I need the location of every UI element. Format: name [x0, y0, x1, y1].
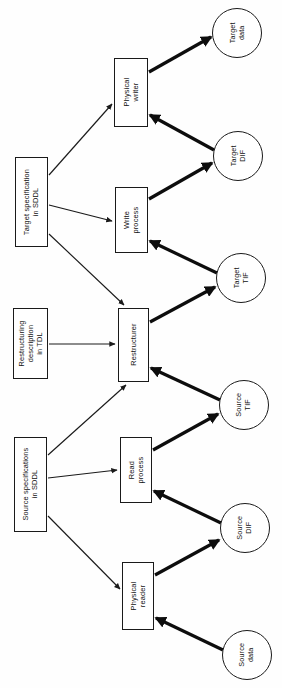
node-target-dif[interactable]: TargetDIF — [213, 131, 263, 181]
node-label: TargetDIF — [229, 146, 247, 167]
edge-source-dif-read-process — [154, 491, 221, 523]
node-physical-writer[interactable]: Physicalwriter — [114, 58, 148, 127]
node-label: SourceDIF — [236, 516, 254, 540]
node-source-data[interactable]: Sourcedata — [222, 630, 272, 680]
node-source-specifications-sddl[interactable]: Source specificationsin SDDL — [14, 437, 47, 532]
node-label: Physicalwriter — [122, 78, 140, 107]
node-label: TargetTIF — [232, 268, 250, 289]
node-label: Restructuringdescriptionin TDL — [17, 321, 44, 367]
edge-target-dif-physical-writer — [150, 115, 214, 150]
edge-sourcespec-read-process — [48, 470, 117, 478]
node-physical-reader[interactable]: Physicalreader — [122, 562, 154, 630]
node-label: Source specificationsin SDDL — [21, 448, 39, 521]
diagram-canvas: Physicalwriter Writeprocess Restructurer… — [0, 0, 282, 688]
node-label: Restructurer — [129, 324, 138, 366]
edge-targetspec-physical-writer — [49, 104, 112, 175]
edge-sourcespec-restructurer — [48, 385, 126, 455]
edge-physical-writer-target-data — [149, 37, 211, 72]
node-label: SourceTIF — [235, 393, 253, 417]
node-write-process[interactable]: Writeprocess — [115, 187, 148, 253]
node-restructuring-description-tdl[interactable]: Restructuringdescriptionin TDL — [13, 308, 48, 379]
edge-targetspec-write-process — [49, 205, 112, 221]
node-label: Sourcedata — [238, 643, 256, 667]
node-source-tif[interactable]: SourceTIF — [219, 380, 269, 430]
edge-physical-reader-source-dif — [155, 540, 219, 575]
edge-source-tif-restructurer — [151, 368, 220, 400]
edge-source-data-physical-reader — [156, 618, 223, 650]
node-read-process[interactable]: Readprocess — [120, 437, 152, 503]
node-source-dif[interactable]: SourceDIF — [220, 503, 270, 553]
node-target-data[interactable]: Targetdata — [212, 8, 262, 58]
node-restructurer[interactable]: Restructurer — [118, 308, 149, 382]
edge-read-process-source-tif — [153, 414, 218, 450]
node-target-specification-sddl[interactable]: Target specificationin SDDL — [15, 157, 48, 247]
node-label: Targetdata — [228, 23, 246, 44]
node-label: Physicalreader — [129, 582, 147, 611]
node-label: Writeprocess — [122, 207, 140, 234]
edge-targetspec-restructurer — [49, 234, 124, 305]
node-label: Readprocess — [127, 457, 145, 484]
node-target-tif[interactable]: TargetTIF — [216, 253, 266, 303]
edge-target-tif-write-process — [150, 241, 217, 273]
edge-restructurer-target-tif — [150, 287, 215, 322]
edge-write-process-target-dif — [149, 163, 212, 199]
node-label: Target specificationin SDDL — [22, 169, 40, 235]
edge-sourcespec-physical-reader — [48, 516, 120, 589]
